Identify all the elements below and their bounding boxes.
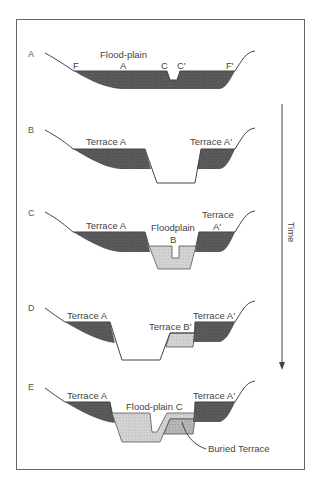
terrace-a-prime-label: Terrace A' (193, 390, 235, 401)
stage-a: A Flood-plain F A C C' F' (28, 49, 255, 89)
label-f-prime: F' (226, 60, 234, 71)
stage-d-terrace-right (193, 322, 235, 342)
stage-b-terrace-right (197, 149, 235, 169)
stage-b: B Terrace A Terrace A' (28, 125, 255, 183)
floodplain-b-fill (149, 246, 196, 269)
floodplain-b-label: Floodplain (151, 222, 195, 233)
label-f: F (73, 60, 79, 71)
floodplain-b-letter: B (170, 234, 176, 245)
stage-a-alluvium (74, 71, 235, 89)
time-label: Time (286, 222, 297, 243)
stage-d-terrace-left (65, 322, 115, 343)
stage-b-label: B (28, 125, 34, 135)
stage-d-label: D (28, 303, 35, 313)
time-arrow: Time (279, 104, 297, 370)
terrace-b-prime-label: Terrace B' (149, 321, 192, 332)
terrace-a-prime-label: Terrace A' (190, 136, 232, 147)
river-terrace-diagram: Time A Flood-plain F A C C' F' B Terrace… (0, 0, 316, 488)
terrace-a-label: Terrace A (86, 220, 127, 231)
stage-c-terrace-right (195, 232, 235, 252)
stage-c-label: C (28, 208, 35, 218)
terrace-a-label: Terrace A (67, 310, 108, 321)
stage-d: D Terrace A Terrace B' Terrace A' (28, 301, 255, 360)
arrow-head-icon (279, 362, 285, 370)
stage-e-label: E (28, 382, 34, 392)
stage-e-terrace-left (65, 402, 115, 423)
floodplain-label: Flood-plain (100, 49, 147, 60)
buried-terrace-label: Buried Terrace (208, 443, 270, 454)
terrace-a-label: Terrace A (86, 136, 127, 147)
stage-e: E Terrace A Flood-plain C Terrace A' Bur… (28, 381, 270, 454)
terrace-a-prime-label: Terrace A' (193, 310, 235, 321)
label-c-prime: C' (177, 60, 186, 71)
floodplain-c-label: Flood-plain C (126, 401, 183, 412)
terrace-label: Terrace (202, 209, 234, 220)
stage-e-terrace-right (193, 402, 235, 422)
terrace-a-label: Terrace A (67, 390, 108, 401)
label-a: A (120, 60, 127, 71)
stage-c: C Terrace A Floodplain B Terrace A' (28, 208, 255, 269)
stage-a-label: A (28, 49, 34, 59)
terrace-b-prime-fill (166, 333, 195, 347)
label-c: C (161, 60, 168, 71)
stage-b-terrace-left (73, 149, 151, 169)
terrace-a-prime-letter: A' (213, 221, 221, 232)
stage-c-terrace-left (73, 232, 150, 252)
